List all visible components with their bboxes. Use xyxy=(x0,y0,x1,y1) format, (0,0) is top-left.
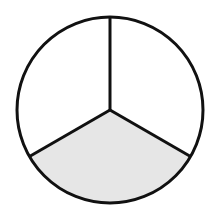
fraction-circle xyxy=(0,0,218,216)
shaded-sector xyxy=(29,110,190,203)
fraction-diagram xyxy=(0,0,218,216)
